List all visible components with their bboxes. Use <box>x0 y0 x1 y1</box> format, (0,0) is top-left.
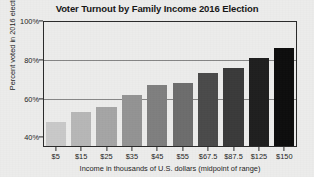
bar <box>71 112 91 147</box>
x-axis-tick-mark <box>208 147 209 151</box>
bar-series <box>43 21 297 147</box>
x-axis-tick-mark <box>131 147 132 151</box>
x-axis-tick-label: $125 <box>251 152 267 161</box>
x-axis-tick-label: $150 <box>276 152 292 161</box>
x-axis-tick-mark <box>284 147 285 151</box>
x-axis-tick-label: $35 <box>126 152 138 161</box>
bar <box>147 85 167 147</box>
x-axis-tick-mark <box>182 147 183 151</box>
x-axis-tick-mark <box>233 147 234 151</box>
bar <box>274 48 294 147</box>
bar <box>96 107 116 147</box>
x-axis-tick-label: $87.5 <box>224 152 243 161</box>
bar <box>46 122 66 147</box>
bar <box>173 83 193 147</box>
x-axis-tick-label: $5 <box>52 152 60 161</box>
y-axis-tick-label: 40% <box>5 133 39 142</box>
bar <box>249 58 269 147</box>
x-axis-tick-mark <box>106 147 107 151</box>
chart-title: Voter Turnout by Family Income 2016 Elec… <box>0 3 314 14</box>
x-axis-tick-mark <box>258 147 259 151</box>
y-axis-tick-labels: 40%60%80%100% <box>0 21 39 147</box>
bar <box>122 95 142 147</box>
x-axis-tick-label: $55 <box>177 152 189 161</box>
x-axis-tick-label: $45 <box>151 152 163 161</box>
x-axis-tick-mark <box>157 147 158 151</box>
x-axis-tick-label: $25 <box>100 152 112 161</box>
bar <box>198 73 218 147</box>
x-axis-tick-label: $67.5 <box>199 152 218 161</box>
x-axis-tick-mark <box>55 147 56 151</box>
x-axis-tick-label: $15 <box>75 152 87 161</box>
plot-area <box>43 21 297 147</box>
x-axis-tick-labels: $5$15$25$35$45$55$67.5$87.5$125$150 <box>43 152 297 164</box>
bar <box>223 68 243 147</box>
y-axis-tick-label: 100% <box>5 17 39 26</box>
y-axis-tick-label: 80% <box>5 55 39 64</box>
x-axis-label: Income in thousands of U.S. dollars (mid… <box>43 164 297 173</box>
chart-screenshot: Voter Turnout by Family Income 2016 Elec… <box>0 0 314 177</box>
y-axis-tick-label: 60% <box>5 94 39 103</box>
x-axis-tick-mark <box>81 147 82 151</box>
